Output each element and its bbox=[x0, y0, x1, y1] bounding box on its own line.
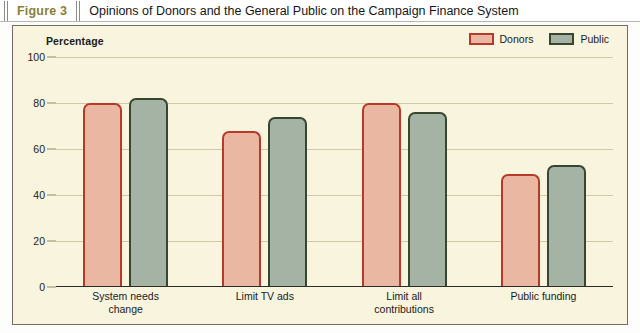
bar-donors[interactable] bbox=[222, 131, 261, 287]
bar-public[interactable] bbox=[547, 165, 586, 287]
y-axis-tick-mark bbox=[47, 241, 56, 242]
x-axis-line bbox=[56, 286, 613, 288]
x-axis-labels: System needschangeLimit TV adsLimit allc… bbox=[56, 290, 613, 316]
bar-public[interactable] bbox=[408, 112, 447, 287]
x-axis-label: Public funding bbox=[474, 290, 613, 316]
bar-donors[interactable] bbox=[83, 103, 122, 287]
bar-public[interactable] bbox=[268, 117, 307, 287]
bar-donors[interactable] bbox=[501, 174, 540, 287]
chart-legend: Donors Public bbox=[469, 33, 609, 45]
bar-group bbox=[56, 57, 195, 287]
bar-group bbox=[474, 57, 613, 287]
legend-label-donors: Donors bbox=[500, 33, 534, 45]
y-axis-tick-mark bbox=[47, 103, 56, 104]
x-axis-label: System needschange bbox=[56, 290, 195, 316]
bar-donors[interactable] bbox=[362, 103, 401, 287]
y-axis-tick-mark bbox=[47, 287, 56, 288]
legend-swatch-public-icon bbox=[549, 33, 574, 45]
figure-number-label: Figure 3 bbox=[8, 4, 76, 18]
figure-title: Opinions of Donors and the General Publi… bbox=[80, 4, 518, 18]
y-axis-tick-mark bbox=[47, 149, 56, 150]
x-axis-label: Limit TV ads bbox=[195, 290, 334, 316]
bar-public[interactable] bbox=[129, 98, 168, 287]
x-axis-label: Limit allcontributions bbox=[335, 290, 474, 316]
y-axis-tick-mark bbox=[47, 57, 56, 58]
legend-item-donors: Donors bbox=[469, 33, 534, 45]
figure-header: Figure 3 Opinions of Donors and the Gene… bbox=[0, 0, 640, 22]
chart-panel: Percentage Donors Public 020406080100 Sy… bbox=[12, 25, 628, 325]
figure-screenshot: Figure 3 Opinions of Donors and the Gene… bbox=[0, 0, 640, 333]
legend-item-public: Public bbox=[549, 33, 609, 45]
legend-swatch-donors-icon bbox=[469, 33, 494, 45]
bar-groups bbox=[56, 57, 613, 287]
plot-area: 020406080100 bbox=[56, 57, 613, 287]
legend-label-public: Public bbox=[580, 33, 609, 45]
y-axis-title: Percentage bbox=[46, 35, 104, 47]
bar-group bbox=[195, 57, 334, 287]
y-axis-tick-mark bbox=[47, 195, 56, 196]
bar-group bbox=[335, 57, 474, 287]
